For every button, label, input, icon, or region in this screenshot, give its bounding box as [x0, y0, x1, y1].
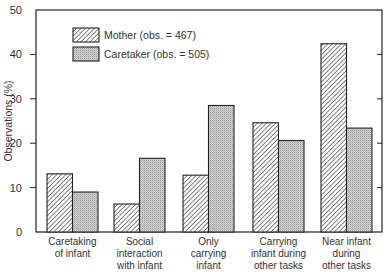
caretaker-legend-swatch	[73, 47, 99, 61]
category-label: Social	[126, 236, 153, 247]
mother-legend-swatch	[73, 28, 99, 42]
mother-bar	[321, 44, 347, 232]
category-label: Near infant	[322, 236, 371, 247]
legend: Mother (obs. = 467)Caretaker (obs. = 505…	[73, 28, 209, 61]
caretaker-bar	[140, 158, 166, 232]
category-label: other tasks	[254, 260, 303, 271]
category-label: with infant	[116, 260, 162, 271]
y-tick-label: 50	[10, 4, 22, 16]
y-tick-label: 40	[10, 48, 22, 60]
caretaker-bar	[279, 141, 305, 232]
legend-label: Caretaker (obs. = 505)	[104, 48, 209, 60]
y-axis-title: Observations (%)	[2, 80, 14, 161]
category-label: during	[333, 248, 361, 259]
category-label: infant during	[251, 248, 306, 259]
category-label: interaction	[116, 248, 162, 259]
x-axis-labels: Caretakingof infantSocialinteractionwith…	[48, 236, 371, 271]
mother-bar	[47, 174, 73, 232]
category-label: other tasks	[322, 260, 371, 271]
mother-bar	[253, 123, 279, 232]
y-tick-label: 10	[10, 182, 22, 194]
legend-label: Mother (obs. = 467)	[104, 29, 196, 41]
bars	[47, 44, 372, 232]
category-label: carrying	[191, 248, 227, 259]
category-label: Carrying	[260, 236, 298, 247]
category-label: infant	[196, 260, 221, 271]
caretaker-bar	[347, 128, 373, 232]
category-label: of infant	[55, 248, 91, 259]
caretaker-bar	[73, 192, 99, 232]
category-label: Only	[198, 236, 219, 247]
bar-chart: 01020304050 Caretakingof infantSocialint…	[0, 0, 389, 272]
y-tick-label: 0	[16, 226, 22, 238]
caretaker-bar	[209, 105, 235, 232]
mother-bar	[114, 204, 140, 232]
category-label: Caretaking	[48, 236, 96, 247]
mother-bar	[183, 175, 209, 232]
